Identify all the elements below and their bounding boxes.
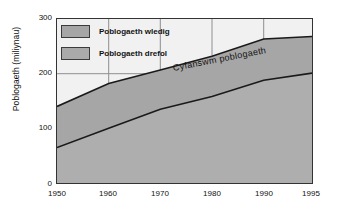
x-tick-1970: 1970 (140, 189, 180, 198)
legend-swatch-urban (61, 47, 90, 60)
legend-item-rural: Poblogaeth wledig (61, 23, 211, 40)
legend-label-urban: Poblogaeth drefol (99, 49, 167, 58)
y-tick-300: 300 (28, 14, 52, 22)
legend-swatch-rural (61, 25, 90, 38)
y-tick-100: 100 (28, 124, 52, 132)
x-tick-1995: 1995 (291, 189, 331, 198)
plot-area: Poblogaeth wledig Poblogaeth drefol Cyfa… (56, 18, 313, 184)
legend-label-rural: Poblogaeth wledig (99, 27, 170, 36)
y-tick-200: 200 (28, 69, 52, 77)
x-tick-1960: 1960 (88, 189, 128, 198)
x-tick-1980: 1980 (192, 189, 232, 198)
population-area-chart: Poblogaeth (miliynau) 300 200 100 0 (0, 0, 337, 212)
x-tick-1990: 1990 (244, 189, 284, 198)
x-axis-ticks: 1950 1960 1970 1980 1990 1995 (0, 186, 337, 206)
y-axis-title: Poblogaeth (miliynau) (11, 9, 21, 129)
x-tick-1950: 1950 (37, 189, 77, 198)
y-axis-ticks: 300 200 100 0 (26, 0, 52, 212)
